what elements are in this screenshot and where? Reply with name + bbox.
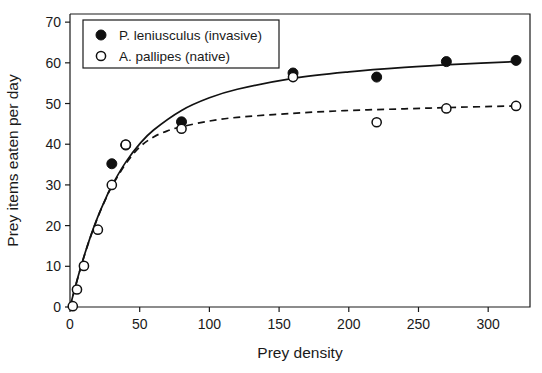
data-point-series-1 [372, 118, 381, 127]
legend-label: A. pallipes (native) [119, 49, 230, 64]
x-tick-label: 250 [407, 316, 431, 332]
x-tick-label: 150 [267, 316, 291, 332]
data-point-series-0 [372, 72, 382, 82]
data-point-series-1 [93, 225, 102, 234]
data-point-series-1 [68, 302, 77, 311]
y-tick-label: 50 [45, 96, 61, 112]
data-point-series-1 [177, 124, 186, 133]
y-tick-label: 30 [45, 177, 61, 193]
data-point-series-1 [511, 101, 520, 110]
data-point-series-1 [288, 72, 297, 81]
data-point-series-1 [72, 285, 81, 294]
x-axis-title: Prey density [257, 344, 343, 361]
y-tick-label: 70 [45, 14, 61, 30]
data-point-series-1 [442, 104, 451, 113]
legend-marker-filled-circle-icon [96, 30, 106, 40]
fit-curves [70, 62, 516, 307]
data-point-series-0 [511, 55, 521, 65]
data-point-series-1 [79, 261, 88, 270]
legend-label: P. leniusculus (invasive) [119, 28, 262, 43]
y-tick-label: 60 [45, 55, 61, 71]
chart-legend[interactable]: P. leniusculus (invasive)A. pallipes (na… [83, 20, 279, 68]
figure-container: 010203040506070050100150200250300 Prey d… [0, 0, 542, 373]
y-axis-title: Prey items eaten per day [4, 74, 21, 247]
data-point-series-1 [107, 180, 116, 189]
fit-curve-series-1 [70, 106, 516, 307]
data-point-series-0 [441, 57, 451, 67]
y-tick-label: 10 [45, 258, 61, 274]
data-point-series-1 [121, 140, 130, 149]
x-tick-label: 300 [477, 316, 501, 332]
y-tick-label: 0 [53, 299, 61, 315]
x-tick-label: 200 [337, 316, 361, 332]
scatter-plot: 010203040506070050100150200250300 Prey d… [0, 0, 542, 373]
legend-marker-open-circle-icon [96, 51, 105, 60]
fit-curve-series-0 [70, 62, 516, 307]
data-point-series-0 [107, 159, 117, 169]
x-tick-label: 0 [66, 316, 74, 332]
x-tick-label: 100 [198, 316, 222, 332]
x-tick-label: 50 [132, 316, 148, 332]
y-tick-label: 20 [45, 218, 61, 234]
y-tick-label: 40 [45, 136, 61, 152]
data-points [68, 55, 521, 310]
